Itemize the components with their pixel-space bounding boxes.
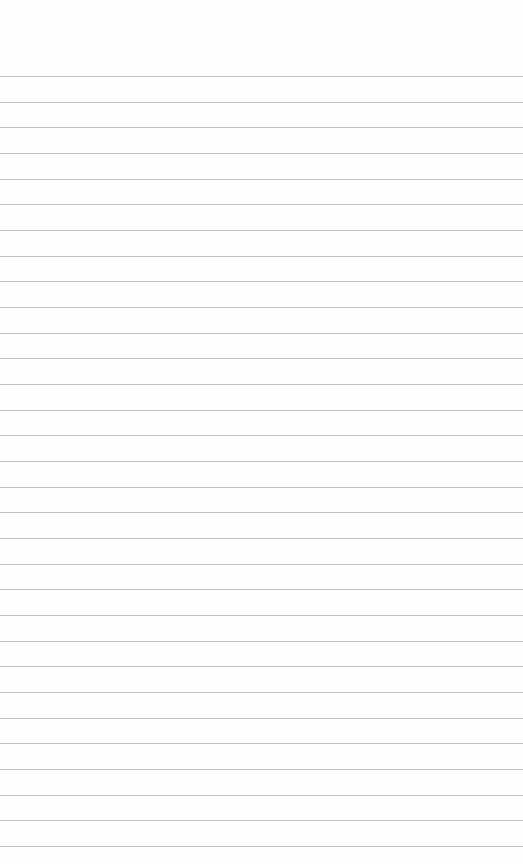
ruled-line xyxy=(0,384,523,385)
ruled-line xyxy=(0,666,523,667)
ruled-line xyxy=(0,795,523,796)
ruled-line xyxy=(0,435,523,436)
ruled-line xyxy=(0,718,523,719)
ruled-line xyxy=(0,589,523,590)
ruled-line xyxy=(0,281,523,282)
ruled-line xyxy=(0,692,523,693)
ruled-line xyxy=(0,153,523,154)
ruled-line xyxy=(0,538,523,539)
ruled-line xyxy=(0,127,523,128)
ruled-line xyxy=(0,76,523,77)
ruled-line xyxy=(0,615,523,616)
ruled-line xyxy=(0,820,523,821)
ruled-line xyxy=(0,102,523,103)
ruled-line xyxy=(0,358,523,359)
ruled-line xyxy=(0,307,523,308)
ruled-line xyxy=(0,564,523,565)
ruled-line xyxy=(0,846,523,847)
ruled-line xyxy=(0,487,523,488)
ruled-line xyxy=(0,641,523,642)
ruled-line xyxy=(0,333,523,334)
ruled-line xyxy=(0,204,523,205)
ruled-line xyxy=(0,461,523,462)
lined-paper xyxy=(0,0,523,864)
ruled-line xyxy=(0,256,523,257)
ruled-line xyxy=(0,769,523,770)
ruled-line xyxy=(0,512,523,513)
ruled-line xyxy=(0,743,523,744)
ruled-line xyxy=(0,179,523,180)
ruled-line xyxy=(0,410,523,411)
ruled-line xyxy=(0,230,523,231)
